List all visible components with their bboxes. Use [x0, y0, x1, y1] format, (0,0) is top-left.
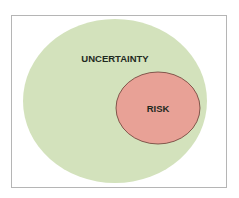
uncertainty-label: UNCERTAINTY — [81, 53, 149, 64]
venn-diagram: UNCERTAINTY RISK — [0, 0, 239, 198]
risk-label: RISK — [147, 103, 170, 114]
